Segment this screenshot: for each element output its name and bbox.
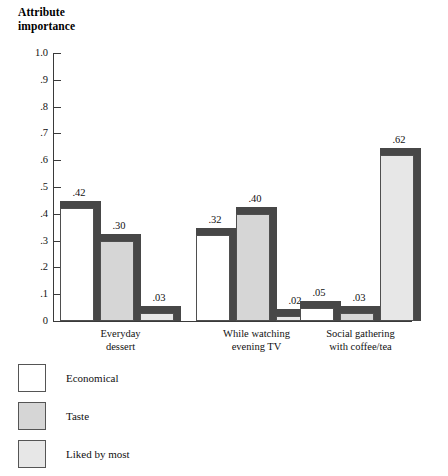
y-tick-mark xyxy=(54,80,61,81)
y-tick-label: 1.0 xyxy=(14,48,48,59)
bar-top-shadow xyxy=(196,228,230,235)
chart-plot-area: 1.0.9.8.7.6.5.4.3.2.10 .42.30.03.32.40.0… xyxy=(0,0,448,360)
category-label-1: Everyday dessert xyxy=(61,327,181,353)
bar-value-label: .32 xyxy=(192,214,238,225)
bar-face xyxy=(236,214,270,321)
bar-value-label: .30 xyxy=(96,220,142,231)
legend-swatch-icon xyxy=(18,402,46,430)
legend-label: Economical xyxy=(66,372,119,385)
bar-face xyxy=(100,241,134,321)
bar-liked-by-most-3[interactable] xyxy=(380,155,414,321)
bar-taste-2[interactable] xyxy=(236,214,270,321)
legend-item-economical[interactable]: Economical xyxy=(18,362,318,400)
bar-top-shadow xyxy=(300,301,334,308)
category-label-3: Social gathering with coffee/tea xyxy=(301,327,421,353)
bar-face xyxy=(340,313,374,321)
y-tick-label: 0 xyxy=(14,316,48,327)
y-tick-label: .3 xyxy=(14,236,48,247)
category-label-2: While watching evening TV xyxy=(197,327,317,353)
bar-top-shadow xyxy=(340,306,374,313)
y-tick-mark xyxy=(54,107,61,108)
y-tick-mark xyxy=(54,321,61,322)
bar-face xyxy=(380,155,414,321)
legend-label: Taste xyxy=(66,410,89,423)
y-tick-mark xyxy=(54,53,61,54)
bar-value-label: .03 xyxy=(336,292,382,303)
y-tick-label: .4 xyxy=(14,209,48,220)
bar-value-label: .62 xyxy=(376,134,422,145)
bar-face xyxy=(140,313,174,321)
legend-swatch-icon xyxy=(18,364,46,392)
bar-side-shadow xyxy=(414,155,421,321)
bar-value-label: .42 xyxy=(56,187,102,198)
x-axis-line xyxy=(53,321,412,322)
y-tick-label: .8 xyxy=(14,102,48,113)
bar-value-label: .40 xyxy=(232,193,278,204)
y-tick-label: .7 xyxy=(14,128,48,139)
y-tick-label: .9 xyxy=(14,75,48,86)
y-tick-mark xyxy=(54,160,61,161)
legend-label: Liked by most xyxy=(66,448,130,461)
bar-economical-3[interactable] xyxy=(300,308,334,321)
bar-taste-3[interactable] xyxy=(340,313,374,321)
bar-face xyxy=(300,308,334,321)
bar-economical-2[interactable] xyxy=(196,235,230,321)
bar-value-label: .03 xyxy=(136,292,182,303)
bar-taste-1[interactable] xyxy=(100,241,134,321)
bar-face xyxy=(60,208,94,321)
bar-top-shadow xyxy=(380,148,414,155)
legend-item-taste[interactable]: Taste xyxy=(18,400,318,438)
y-tick-label: .2 xyxy=(14,262,48,273)
bar-liked-by-most-1[interactable] xyxy=(140,313,174,321)
y-tick-label: .5 xyxy=(14,182,48,193)
bar-face xyxy=(196,235,230,321)
bar-side-shadow xyxy=(174,313,181,321)
legend-item-liked-by-most[interactable]: Liked by most xyxy=(18,438,318,476)
bar-top-shadow xyxy=(100,234,134,241)
chart-legend: EconomicalTasteLiked by most xyxy=(18,362,318,476)
y-tick-mark xyxy=(54,133,61,134)
bar-economical-1[interactable] xyxy=(60,208,94,321)
y-tick-label: .6 xyxy=(14,155,48,166)
bar-top-shadow xyxy=(140,306,174,313)
legend-swatch-icon xyxy=(18,440,46,468)
y-tick-label: .1 xyxy=(14,289,48,300)
bar-top-shadow xyxy=(236,207,270,214)
bar-top-shadow xyxy=(60,201,94,208)
